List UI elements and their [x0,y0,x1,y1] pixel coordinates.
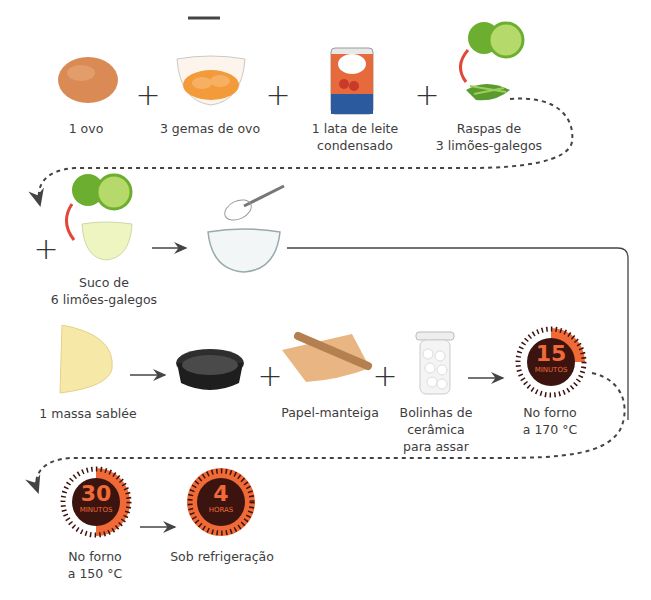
egg-yolks-bowl-icon [174,53,248,113]
ingredient-label-suco: Suco de 6 limões-galegos [51,274,157,308]
step-label-forno170: No forno a 170 °C [523,404,577,438]
ingredient-label-gemas: 3 gemas de ovo [160,120,260,137]
ingredient-label-papel: Papel-manteiga [281,404,379,421]
lime-juice-icon [60,170,140,269]
ingredient-label-raspas: Raspas de 3 limões-galegos [436,120,542,154]
lime-zest-icon [446,20,536,112]
timer-value: 15 [515,342,587,366]
step-label-forno150: No forno a 150 °C [68,548,122,582]
timer-icon-30: 30 MINUTOS [60,466,132,542]
plus-operator: + [135,80,160,110]
condensed-milk-can-icon [330,46,374,120]
timer-icon-4h: 4 HORAS [185,466,257,542]
ingredient-label-leite: 1 lata de leite condensado [312,120,398,154]
timer-unit: MINUTOS [515,366,587,374]
timer-icon-15: 15 MINUTOS [515,326,587,402]
pastry-dough-icon [50,325,116,399]
ingredient-label-ovo: 1 ovo [69,120,104,137]
plus-operator: + [265,80,290,110]
step-label-geladeira: Sob refrigeração [170,548,274,565]
timer-value: 4 [185,482,257,506]
egg-icon [57,56,119,108]
timer-unit: MINUTOS [60,506,132,514]
whisk-bowl-icon [204,184,288,278]
plus-operator: + [33,234,58,264]
ingredient-label-massa: 1 massa sablée [39,405,136,422]
tart-pan-icon [175,347,245,401]
timer-unit: HORAS [185,506,257,514]
parchment-paper-icon [278,328,374,388]
timer-value: 30 [60,482,132,506]
plus-operator: + [372,361,397,391]
plus-operator: + [414,80,439,110]
ceramic-beads-jar-icon [410,328,460,400]
ingredient-label-bolinhas: Bolinhas de cerâmica para assar [400,404,473,455]
